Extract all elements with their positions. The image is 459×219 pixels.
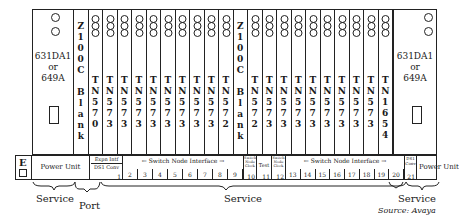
source-credit: Source: Avaya (378, 206, 436, 215)
service-group-right: Service (398, 193, 436, 204)
port-group: Port (79, 200, 100, 211)
service-group-left: Service (36, 193, 74, 204)
service-group-center: Service (224, 193, 262, 204)
